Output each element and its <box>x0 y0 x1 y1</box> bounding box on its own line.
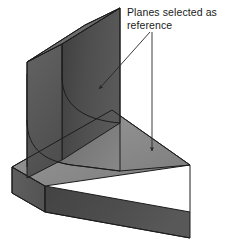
l-bracket-illustration <box>0 0 238 248</box>
l-bracket-solid <box>12 8 190 238</box>
base-front-face <box>45 186 190 238</box>
figure-canvas: Planes selected as reference <box>0 0 238 248</box>
annotation-label: Planes selected as reference <box>127 6 235 31</box>
wall-left-end-face <box>27 44 62 178</box>
